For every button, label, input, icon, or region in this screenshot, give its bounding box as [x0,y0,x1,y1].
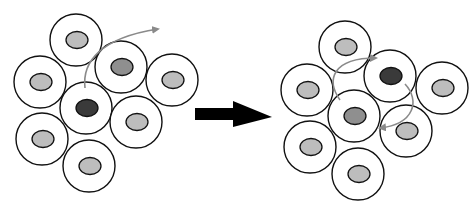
nucleus-light [32,131,54,148]
nucleus-light [297,82,319,99]
after-cell-left [281,64,333,116]
nucleus-light [66,32,88,49]
before-cluster [14,14,198,192]
after-cell-lower-left [284,121,336,173]
nucleus-dark [76,100,98,117]
nucleus-light [79,158,101,175]
before-cell-center [60,82,112,134]
after-cell-top [319,21,371,73]
nucleus-light [126,114,148,131]
after-cell-center [328,90,380,142]
nucleus-light [300,139,322,156]
nucleus-light [432,80,454,97]
before-cell-far-right [146,54,198,106]
before-cell-bottom [63,140,115,192]
nucleus-light [162,72,184,89]
cell-rearrangement-diagram [0,0,476,212]
after-cluster [281,21,468,200]
after-cell-lower-right [380,105,432,157]
before-cell-lower-left [16,113,68,165]
after-cell-far-right [416,62,468,114]
nucleus-light [335,39,357,56]
nucleus-medium [344,108,366,125]
before-cell-top [50,14,102,66]
after-cell-bottom [332,148,384,200]
transition-arrow-icon [195,101,272,127]
nucleus-light [396,123,418,140]
nucleus-dark [380,68,402,85]
nucleus-light [30,74,52,91]
nucleus-light [348,166,370,183]
before-cell-left [14,56,66,108]
before-cell-lower-right [110,96,162,148]
nucleus-medium [111,59,133,76]
